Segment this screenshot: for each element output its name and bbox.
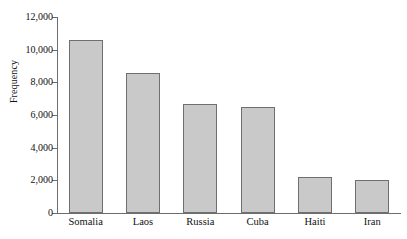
x-axis-line bbox=[57, 213, 401, 214]
y-axis-line bbox=[57, 17, 58, 214]
bar bbox=[298, 177, 332, 213]
y-tick-label: 4,000 bbox=[31, 143, 54, 153]
bar bbox=[183, 104, 217, 213]
bar bbox=[69, 40, 103, 213]
x-axis-label: Haiti bbox=[286, 217, 343, 228]
y-axis-title: Frequency bbox=[8, 37, 19, 127]
y-tick-label: 0 bbox=[48, 208, 53, 218]
x-axis-label: Russia bbox=[172, 217, 229, 228]
bar bbox=[241, 107, 275, 213]
bar bbox=[126, 73, 160, 213]
x-axis-label: Cuba bbox=[229, 217, 286, 228]
y-tick-label: 10,000 bbox=[26, 45, 54, 55]
y-tick-label: 2,000 bbox=[31, 175, 54, 185]
plot-area: 02,0004,0006,0008,00010,00012,000 Somali… bbox=[57, 17, 401, 214]
y-tick-label: 12,000 bbox=[26, 12, 54, 22]
y-tick-label: 8,000 bbox=[31, 77, 54, 87]
x-axis-label: Iran bbox=[344, 217, 401, 228]
y-tick-label: 6,000 bbox=[31, 110, 54, 120]
x-axis-label: Laos bbox=[114, 217, 171, 228]
x-axis-label: Somalia bbox=[57, 217, 114, 228]
bar-chart: Frequency 02,0004,0006,0008,00010,00012,… bbox=[0, 0, 407, 239]
bar bbox=[355, 180, 389, 213]
